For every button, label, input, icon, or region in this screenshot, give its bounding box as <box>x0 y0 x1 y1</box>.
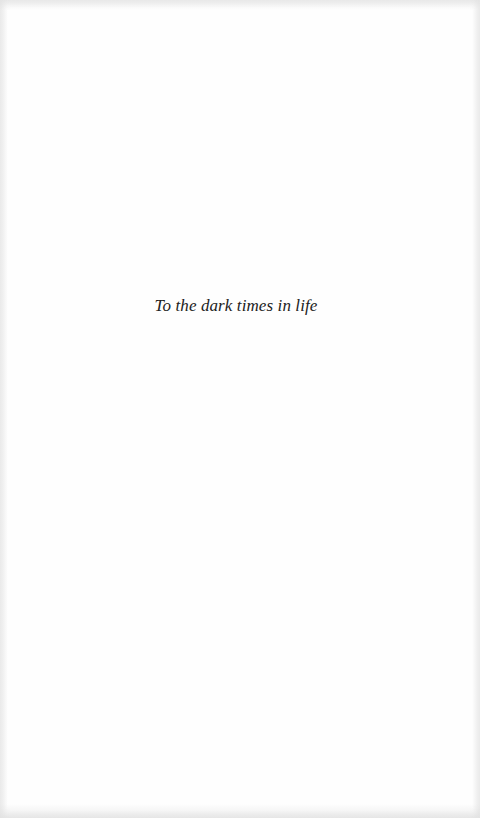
book-page: To the dark times in life <box>0 0 480 818</box>
page-edge-top <box>0 0 480 10</box>
page-edge-left <box>0 0 8 818</box>
page-edge-bottom <box>0 804 480 818</box>
page-edge-right <box>472 0 480 818</box>
dedication-text: To the dark times in life <box>0 295 472 317</box>
